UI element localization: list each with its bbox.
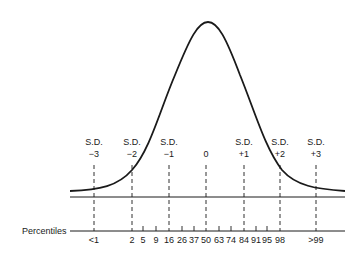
percentiles-label: Percentiles bbox=[22, 226, 67, 236]
percentile-label: 63 bbox=[214, 235, 224, 245]
percentile-label: >99 bbox=[308, 235, 323, 245]
sd-label: S.D. bbox=[271, 137, 289, 147]
percentile-label: 50 bbox=[201, 235, 211, 245]
sd-value: −1 bbox=[164, 149, 174, 159]
sd-label: S.D. bbox=[85, 137, 103, 147]
percentile-label: 2 bbox=[129, 235, 134, 245]
percentile-label: 74 bbox=[226, 235, 236, 245]
sd-label: S.D. bbox=[307, 137, 325, 147]
percentile-label: 26 bbox=[177, 235, 187, 245]
sd-value: +1 bbox=[239, 149, 249, 159]
percentile-label: 5 bbox=[140, 235, 145, 245]
sd-label: S.D. bbox=[160, 137, 178, 147]
percentile-label: 98 bbox=[275, 235, 285, 245]
percentile-label: 84 bbox=[239, 235, 249, 245]
percentile-label: 16 bbox=[164, 235, 174, 245]
percentile-label: 95 bbox=[262, 235, 272, 245]
percentile-label: <1 bbox=[89, 235, 99, 245]
sd-label: S.D. bbox=[235, 137, 253, 147]
sd-label: S.D. bbox=[123, 137, 141, 147]
sd-value: −2 bbox=[127, 149, 137, 159]
sd-markers: S.D.−3S.D.−2S.D.−10S.D.+1S.D.+2S.D.+3 bbox=[85, 137, 325, 231]
normal-distribution-diagram: S.D.−3S.D.−2S.D.−10S.D.+1S.D.+2S.D.+3 <1… bbox=[0, 0, 360, 261]
sd-value: −3 bbox=[89, 149, 99, 159]
percentile-label: 9 bbox=[153, 235, 158, 245]
sd-value: +3 bbox=[311, 149, 321, 159]
sd-value: 0 bbox=[203, 149, 208, 159]
bell-curve bbox=[70, 22, 345, 191]
sd-value: +2 bbox=[275, 149, 285, 159]
percentile-label: 91 bbox=[251, 235, 261, 245]
percentile-label: 37 bbox=[189, 235, 199, 245]
